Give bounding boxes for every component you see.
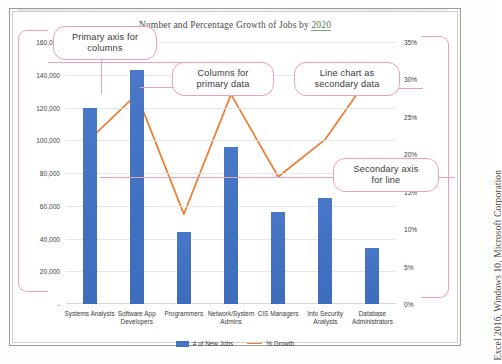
bar-3 <box>224 147 238 304</box>
leader-columns-primary <box>140 87 176 88</box>
legend-item-jobs: # of New Jobs <box>176 340 234 347</box>
leader-secondary-axis-h2 <box>100 177 340 178</box>
secondary-axis-tick: 0% <box>404 301 414 308</box>
callout-columns-primary-text: Columns forprimary data <box>197 68 250 90</box>
legend-label-jobs: # of New Jobs <box>193 340 234 347</box>
bar-4 <box>271 212 285 304</box>
secondary-axis-tick: 5% <box>404 263 414 270</box>
category-axis-labels: Systems AnalystsSoftware AppDevelopersPr… <box>66 308 396 338</box>
chart-legend: # of New Jobs % Growth <box>14 340 456 347</box>
callout-line-secondary-text: Line chart assecondary data <box>315 68 380 90</box>
secondary-axis-tick: 30% <box>404 76 417 83</box>
legend-bar-swatch-icon <box>176 341 189 347</box>
callout-columns-primary: Columns forprimary data <box>172 62 274 96</box>
gridline <box>66 140 396 141</box>
secondary-axis-tick: 20% <box>404 151 417 158</box>
legend-item-growth: % Growth <box>247 340 294 347</box>
figure-side-caption: Excel 2016, Windows 10, Microsoft Corpor… <box>492 170 502 361</box>
callout-line-secondary: Line chart assecondary data <box>294 62 400 96</box>
leader-primary-axis-horizontal <box>48 62 183 63</box>
secondary-axis-tick: 25% <box>404 113 417 120</box>
callout-secondary-axis-text: Secondary axisfor line <box>354 164 419 186</box>
secondary-axis-tick: 10% <box>404 226 417 233</box>
gridline <box>66 108 396 109</box>
bar-5 <box>318 198 332 304</box>
bar-2 <box>177 232 191 304</box>
chart-title-text: Number and Percentage Growth of Jobs by <box>139 20 311 30</box>
primary-axis-tick: - <box>58 301 60 308</box>
callout-primary-axis: Primary axis forcolumns <box>53 26 157 60</box>
bar-1 <box>130 70 144 304</box>
secondary-axis-tick: 35% <box>404 39 417 46</box>
callout-secondary-axis: Secondary axisfor line <box>333 158 439 192</box>
legend-line-swatch-icon <box>247 343 262 344</box>
scan-artifact <box>18 9 448 11</box>
bar-0 <box>83 108 97 305</box>
category-label-6: DatabaseAdministrators <box>342 310 403 326</box>
bar-6 <box>365 248 379 304</box>
primary-axis-highlight-bracket <box>18 30 48 292</box>
legend-label-growth: % Growth <box>266 340 294 347</box>
callout-primary-axis-text: Primary axis forcolumns <box>72 32 138 54</box>
chart-title-year: 2020 <box>311 20 331 31</box>
